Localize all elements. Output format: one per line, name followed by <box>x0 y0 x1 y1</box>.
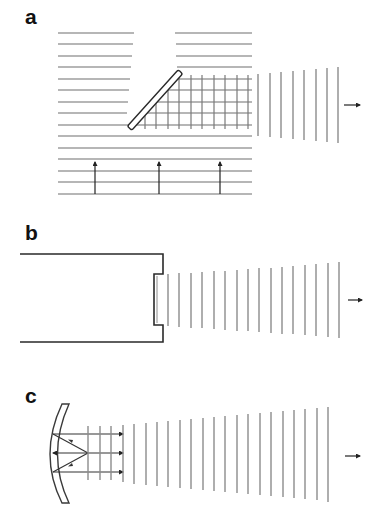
incident-arrows <box>95 162 220 194</box>
outgoing-wavefronts-a <box>258 67 338 143</box>
waveguide-enclosure <box>20 254 163 342</box>
outgoing-wavefronts-c <box>88 407 328 502</box>
incident-wavefronts-right-top <box>175 33 252 67</box>
diagram-canvas <box>0 0 374 511</box>
panel-c <box>50 404 360 503</box>
panel-b <box>20 254 362 342</box>
incident-wavefronts-left <box>58 33 134 125</box>
outgoing-wavefronts-b <box>168 262 339 338</box>
incident-wavefronts-lower <box>58 136 252 194</box>
reflector-plate <box>127 70 182 130</box>
panel-a <box>58 33 360 194</box>
